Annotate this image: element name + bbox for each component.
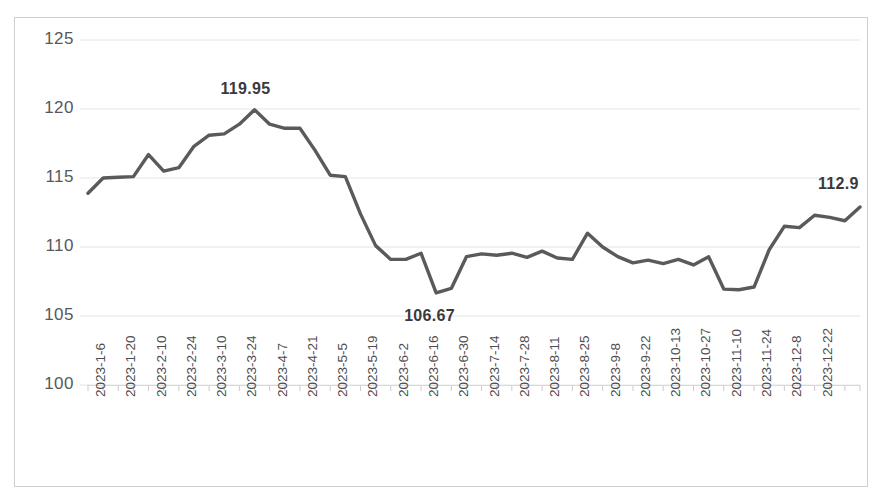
x-axis-tick-label: 2023-10-27 [698, 328, 713, 397]
x-axis-tick-label: 2023-8-11 [547, 336, 562, 397]
line-chart-plot [0, 0, 876, 503]
y-axis-tick-label: 100 [28, 374, 74, 394]
x-axis-tick-label: 2023-5-19 [365, 335, 380, 397]
chart-screenshot: 125120115110105100 2023-1-62023-1-202023… [0, 0, 876, 503]
figure-caption [0, 494, 876, 503]
x-axis-tick-label: 2023-4-7 [275, 343, 290, 397]
x-axis-tick-label: 2023-2-10 [154, 335, 169, 397]
y-axis-tick-label: 125 [28, 29, 74, 49]
data-point-label: 112.9 [818, 175, 859, 193]
x-axis-tick-label: 2023-10-13 [668, 328, 683, 397]
x-axis-tick-label: 2023-6-2 [396, 343, 411, 397]
x-axis-tick-label: 2023-7-28 [517, 335, 532, 397]
x-axis-tick-label: 2023-11-10 [729, 329, 744, 397]
data-series-line [88, 110, 860, 293]
y-axis-tick-label: 110 [28, 236, 74, 256]
x-axis-tick-label: 2023-1-20 [123, 335, 138, 397]
x-axis-tick-label: 2023-1-6 [93, 343, 108, 397]
x-axis-tick-label: 2023-8-25 [577, 335, 592, 397]
x-axis-tick-label: 2023-7-14 [487, 335, 502, 397]
x-axis-tick-label: 2023-2-24 [184, 335, 199, 397]
x-axis-tick-label: 2023-9-8 [608, 343, 623, 397]
y-axis-tick-label: 120 [28, 98, 74, 118]
y-axis-tick-label: 115 [28, 167, 74, 187]
x-axis-tick-label: 2023-6-16 [426, 335, 441, 397]
x-axis-tick-label: 2023-12-22 [820, 328, 835, 397]
x-axis-tick-label: 2023-5-5 [335, 343, 350, 397]
x-axis-tick-label: 2023-4-21 [305, 335, 320, 397]
y-axis-tick-label: 105 [28, 305, 74, 325]
x-axis-tick-label: 2023-3-24 [244, 335, 259, 397]
x-axis-tick-label: 2023-3-10 [214, 335, 229, 397]
x-axis-tick-label: 2023-6-30 [456, 335, 471, 397]
x-axis-tick-label: 2023-12-8 [789, 335, 804, 397]
data-point-label: 119.95 [221, 80, 271, 98]
data-point-label: 106.67 [404, 307, 455, 325]
x-axis-tick-label: 2023-9-22 [638, 335, 653, 397]
x-axis-tick-label: 2023-11-24 [759, 329, 774, 397]
